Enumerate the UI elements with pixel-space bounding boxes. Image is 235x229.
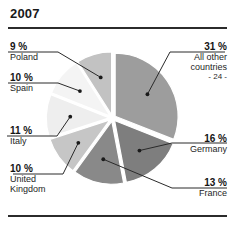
leader-dot xyxy=(68,115,72,119)
slice-value-france: 13 % xyxy=(199,177,227,188)
slice-label-italy: 11 % Italy xyxy=(10,125,32,146)
slice-value-united-kingdom: 10 % xyxy=(10,163,46,174)
leader-dot xyxy=(146,92,150,96)
leader-dot xyxy=(101,157,105,161)
leader-dot xyxy=(76,141,80,145)
slice-value-poland: 9 % xyxy=(10,41,38,52)
leader-dot xyxy=(78,89,82,93)
slice-label-france: 13 % France xyxy=(199,177,227,198)
slice-name-united-kingdom-line2: Kingdom xyxy=(10,184,46,194)
leader-dot xyxy=(138,149,142,153)
slice-name-italy: Italy xyxy=(10,136,32,146)
pie-chart-figure: 2007 9 % Poland 10 % Spain 11 % Italy 10… xyxy=(0,0,235,229)
slice-value-italy: 11 % xyxy=(10,125,32,136)
slice-name-all-other-countries-line2: countries xyxy=(190,62,227,72)
slice-label-united-kingdom: 10 % United Kingdom xyxy=(10,163,46,194)
slice-name-poland: Poland xyxy=(10,52,38,62)
slice-label-all-other-countries: 31 % All other countries - 24 - xyxy=(190,41,227,82)
slice-name-germany: Germany xyxy=(190,144,227,154)
slice-name-united-kingdom-line1: United xyxy=(10,174,46,184)
slice-label-spain: 10 % Spain xyxy=(10,72,33,93)
slice-value-spain: 10 % xyxy=(10,72,33,83)
slice-name-france: France xyxy=(199,188,227,198)
leader-dot xyxy=(99,76,103,80)
slice-value-germany: 16 % xyxy=(190,133,227,144)
slice-sublabel-all-other-countries: - 24 - xyxy=(190,72,227,82)
slice-value-all-other-countries: 31 % xyxy=(190,41,227,52)
slice-label-poland: 9 % Poland xyxy=(10,41,38,62)
slice-name-all-other-countries-line1: All other xyxy=(190,52,227,62)
slice-label-germany: 16 % Germany xyxy=(190,133,227,154)
slice-name-spain: Spain xyxy=(10,83,33,93)
